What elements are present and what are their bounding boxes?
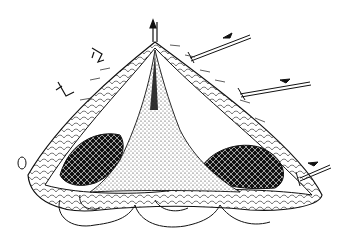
oval-marker-left	[18, 157, 26, 169]
arrow-up-apex	[150, 20, 157, 42]
clamp-left	[56, 82, 74, 96]
arrow-upper-right	[188, 33, 251, 63]
clamp-upper-left	[92, 48, 104, 62]
illustration-canvas	[0, 0, 343, 239]
arrow-mid-right	[238, 79, 311, 100]
surgical-illustration	[0, 0, 343, 239]
